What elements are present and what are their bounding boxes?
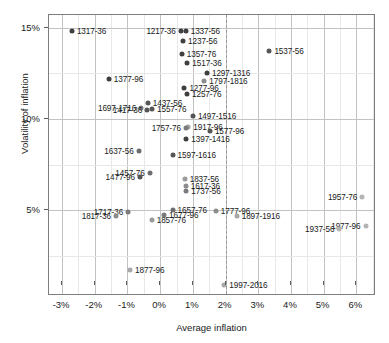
data-point[interactable] (145, 107, 150, 112)
data-point[interactable] (185, 61, 190, 66)
data-point-label: 1397-1416 (191, 135, 229, 144)
data-point[interactable] (184, 92, 189, 97)
x-tick-label: 2% (218, 299, 232, 310)
data-point[interactable] (182, 85, 187, 90)
gridline-vertical-minor (144, 15, 145, 294)
x-tick-mark (225, 281, 226, 285)
data-point[interactable] (234, 213, 239, 218)
gridline-vertical (324, 15, 325, 294)
gridline-vertical-minor (307, 15, 308, 294)
gridline-vertical-minor (78, 15, 79, 294)
data-point-label: 1237-56 (188, 37, 217, 46)
x-tick-mark (355, 281, 356, 285)
y-tick-label: 5% (0, 204, 40, 215)
x-tick-label: 1% (185, 299, 199, 310)
x-tick-label: 0% (152, 299, 166, 310)
data-point-label: 1937-56 (305, 225, 334, 234)
data-point-label: 1737-56 (191, 186, 220, 195)
data-point-label: 1337-56 (191, 26, 220, 35)
data-point[interactable] (360, 195, 365, 200)
x-tick-mark (94, 281, 95, 285)
data-point[interactable] (145, 100, 150, 105)
data-point-label: 1817-36 (82, 212, 111, 221)
data-point[interactable] (202, 78, 207, 83)
gridline-vertical-minor (340, 15, 341, 294)
data-point-label: 1637-56 (104, 146, 133, 155)
data-point[interactable] (207, 128, 212, 133)
y-tick-mark (44, 209, 48, 210)
data-point[interactable] (182, 177, 187, 182)
gridline-horizontal (49, 256, 374, 257)
data-point[interactable] (363, 223, 368, 228)
data-point[interactable] (183, 28, 188, 33)
data-point-label: 1377-96 (114, 74, 143, 83)
data-point[interactable] (184, 126, 189, 131)
data-point-label: 1497-1516 (198, 112, 236, 121)
data-point-label: 1997-2016 (229, 280, 267, 289)
data-point-label: 1537-56 (274, 46, 303, 55)
data-point[interactable] (184, 188, 189, 193)
x-tick-label: 6% (349, 299, 363, 310)
y-tick-mark (44, 118, 48, 119)
data-point-label: 1597-1616 (178, 151, 216, 160)
data-point-label: 1557-76 (157, 104, 186, 113)
data-point[interactable] (170, 153, 175, 158)
data-point-label: 1477-96 (106, 173, 135, 182)
data-point[interactable] (69, 28, 74, 33)
data-point-label: 1257-76 (192, 90, 221, 99)
plot-area: 1217-361337-561237-561317-361357-761537-… (48, 14, 375, 295)
gridline-vertical-minor (373, 15, 374, 294)
data-point[interactable] (150, 106, 155, 111)
y-tick-label: 15% (0, 21, 40, 32)
data-point[interactable] (147, 170, 152, 175)
data-point[interactable] (181, 39, 186, 44)
y-tick-mark (44, 27, 48, 28)
gridline-vertical (62, 15, 63, 294)
gridline-vertical (95, 15, 96, 294)
data-point[interactable] (126, 209, 131, 214)
gridline-horizontal (49, 165, 374, 166)
x-tick-mark (257, 281, 258, 285)
x-tick-mark (290, 281, 291, 285)
data-point[interactable] (179, 52, 184, 57)
data-point[interactable] (213, 208, 218, 213)
x-tick-mark (61, 281, 62, 285)
data-point-label: 1217-36 (146, 26, 175, 35)
data-point[interactable] (114, 214, 119, 219)
reference-line-2pct (226, 15, 227, 294)
data-point-label: 1877-96 (135, 266, 164, 275)
data-point[interactable] (149, 217, 154, 222)
data-point[interactable] (137, 175, 142, 180)
gridline-vertical-minor (275, 15, 276, 294)
gridline-vertical (291, 15, 292, 294)
scatter-chart: Volatility of inflation Average inflatio… (0, 0, 389, 343)
x-axis-title: Average inflation (48, 322, 375, 333)
gridline-vertical (160, 15, 161, 294)
gridline-vertical (258, 15, 259, 294)
gridline-vertical (356, 15, 357, 294)
x-tick-label: -1% (118, 299, 135, 310)
data-point[interactable] (106, 76, 111, 81)
x-tick-label: -3% (53, 299, 70, 310)
x-tick-mark (159, 281, 160, 285)
data-point[interactable] (267, 48, 272, 53)
data-point[interactable] (128, 268, 133, 273)
data-point[interactable] (337, 227, 342, 232)
x-tick-label: 3% (250, 299, 264, 310)
data-point-label: 1897-1916 (242, 211, 280, 220)
data-point[interactable] (190, 114, 195, 119)
x-tick-label: -2% (85, 299, 102, 310)
x-tick-label: 5% (316, 299, 330, 310)
data-point[interactable] (204, 71, 209, 76)
data-point-label: 1317-36 (77, 26, 106, 35)
data-point[interactable] (136, 148, 141, 153)
x-tick-mark (126, 281, 127, 285)
data-point[interactable] (184, 137, 189, 142)
gridline-vertical-minor (242, 15, 243, 294)
data-point-label: 1417-36 (113, 105, 142, 114)
x-tick-label: 4% (283, 299, 297, 310)
y-tick-label: 10% (0, 113, 40, 124)
data-point-label: 1977-96 (331, 221, 360, 230)
x-tick-mark (323, 281, 324, 285)
data-point-label: 1957-76 (328, 193, 357, 202)
